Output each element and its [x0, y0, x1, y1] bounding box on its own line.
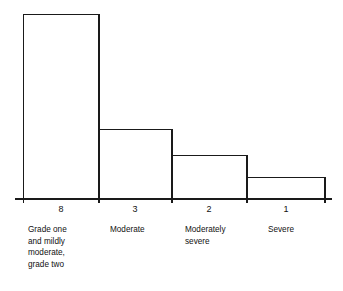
category-label-3: Severe: [268, 224, 328, 236]
value-label-3: 1: [283, 204, 288, 214]
chart-svg: 8 3 2 1: [0, 0, 343, 215]
bar-2[interactable]: [172, 156, 247, 200]
value-label-2: 2: [206, 204, 211, 214]
value-label-1: 3: [132, 204, 137, 214]
category-label-2: Moderately severe: [185, 224, 259, 247]
category-label-0: Grade one and mildly moderate, grade two: [28, 224, 104, 270]
bar-3[interactable]: [247, 178, 325, 200]
plot-area: 8 3 2 1: [0, 0, 343, 215]
value-label-0: 8: [58, 204, 63, 214]
category-label-group: Grade one and mildly moderate, grade two…: [0, 222, 343, 291]
bar-0[interactable]: [24, 15, 100, 200]
bar-chart-figure: 8 3 2 1 Grade one and mildly moderate, g…: [0, 0, 343, 291]
category-label-1: Moderate: [110, 224, 180, 236]
bar-1[interactable]: [99, 130, 172, 200]
